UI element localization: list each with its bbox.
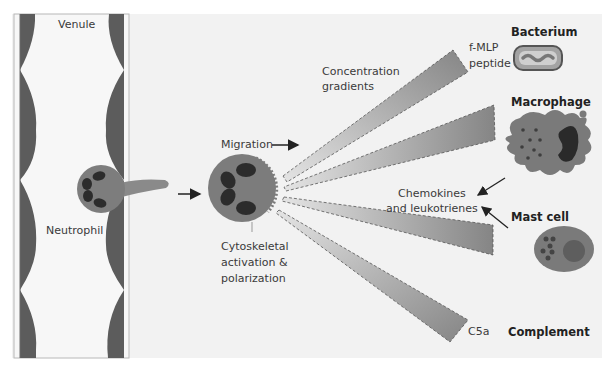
macrophage-label: Macrophage: [511, 95, 591, 109]
bacterium: [514, 46, 562, 70]
neutrophil-label: Neutrophil: [46, 224, 103, 238]
chemokines-label: Chemokines and leukotrienes: [386, 186, 478, 216]
mast-cell-label: Mast cell: [511, 210, 569, 224]
complement-label: Complement: [508, 325, 590, 339]
mast-cell: [534, 226, 594, 272]
c5a-label: C5a: [468, 325, 489, 339]
migration-label: Migration: [221, 138, 273, 152]
fmlp-peptide-label: f-MLP peptide: [469, 40, 511, 72]
cytoskeletal-label: Cytoskeletal activation & polarization: [221, 239, 289, 287]
bacterium-label: Bacterium: [511, 25, 577, 39]
diagram-canvas: [0, 0, 614, 367]
chemotaxis-diagram: Venule Neutrophil Migration Cytoskeletal…: [0, 0, 614, 367]
venule-label: Venule: [58, 18, 95, 32]
concentration-gradients-label: Concentration gradients: [322, 64, 400, 94]
